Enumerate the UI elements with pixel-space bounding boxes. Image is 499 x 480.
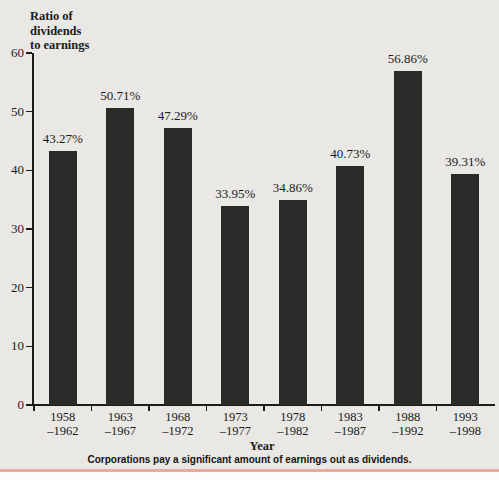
x-category-label: 1993 –1998	[437, 411, 493, 438]
x-category-label: 1988 –1992	[380, 411, 436, 438]
x-category-label: 1958 –1962	[35, 411, 91, 438]
y-axis-tick	[26, 228, 33, 230]
y-tick-label: 10	[2, 339, 24, 353]
x-category-label: 1973 –1977	[207, 411, 263, 438]
bar-value-label: 40.73%	[315, 147, 385, 161]
bar-value-label: 43.27%	[28, 132, 98, 146]
bar-value-label: 56.86%	[373, 52, 443, 66]
plot-area: 010203040506043.27%1958 –196250.71%1963 …	[0, 0, 499, 480]
bar	[451, 174, 479, 405]
x-category-label: 1968 –1972	[150, 411, 206, 438]
dividends-ratio-bar-chart: Ratio of dividends to earnings 010203040…	[0, 0, 499, 480]
bar	[279, 200, 307, 405]
y-axis-line	[32, 53, 34, 406]
x-axis-title: Year	[34, 439, 490, 454]
y-axis-tick	[26, 287, 33, 289]
bar-value-label: 47.29%	[143, 109, 213, 123]
bar	[394, 71, 422, 405]
bar	[49, 151, 77, 405]
y-tick-label: 50	[2, 105, 24, 119]
bar	[164, 128, 192, 405]
bar	[106, 108, 134, 405]
y-tick-label: 30	[2, 222, 24, 236]
y-tick-label: 20	[2, 281, 24, 295]
y-axis-tick	[26, 111, 33, 113]
y-tick-label: 40	[2, 163, 24, 177]
bar-value-label: 39.31%	[430, 155, 499, 169]
figure-caption: Corporations pay a significant amount of…	[0, 454, 499, 465]
x-category-label: 1983 –1987	[322, 411, 378, 438]
bar	[221, 206, 249, 405]
y-axis-tick	[26, 170, 33, 172]
x-category-label: 1963 –1967	[92, 411, 148, 438]
bar-value-label: 34.86%	[258, 181, 328, 195]
y-axis-tick	[26, 346, 33, 348]
y-axis-tick	[26, 404, 33, 406]
bar	[336, 166, 364, 405]
y-axis-tick	[26, 52, 33, 54]
y-tick-label: 0	[2, 398, 24, 412]
x-category-label: 1978 –1982	[265, 411, 321, 438]
y-tick-label: 60	[2, 46, 24, 60]
bottom-strip	[0, 472, 499, 480]
bar-value-label: 50.71%	[85, 89, 155, 103]
